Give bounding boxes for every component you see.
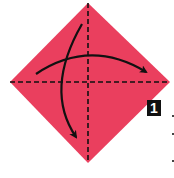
margin-mark bbox=[172, 133, 174, 135]
paper-square bbox=[10, 3, 170, 163]
margin-mark bbox=[172, 115, 174, 117]
margin-mark bbox=[172, 160, 174, 162]
origami-diagram bbox=[0, 0, 174, 178]
step-number-badge: 1 bbox=[147, 100, 161, 116]
